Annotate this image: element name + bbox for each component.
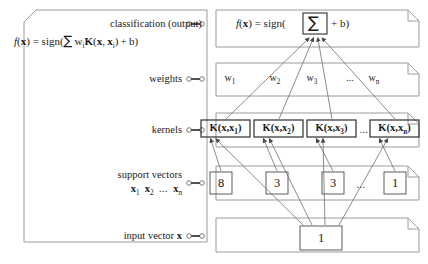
- support-vector-digit-n: 1: [384, 177, 406, 190]
- label-input-vector: input vector x: [90, 231, 182, 242]
- weight-label-n: wn: [362, 73, 386, 86]
- kernel-box-2: K(x,x2): [254, 123, 303, 136]
- label-weights: weights: [120, 74, 182, 85]
- output-formula-suffix: + b): [331, 18, 349, 29]
- weight-label-ellipsis: ...: [340, 73, 360, 83]
- svm-architecture-diagram: classification (output) f(x) = sign(∑ wi…: [0, 0, 428, 264]
- label-support-vectors: support vectors: [80, 170, 182, 181]
- label-kernels: kernels: [120, 125, 182, 136]
- support-vector-digit-3: 3: [322, 177, 344, 190]
- label-classification-output: classification (output): [110, 19, 182, 30]
- support-vector-digit-1: 8: [210, 177, 232, 190]
- weight-label-3: w3: [300, 73, 324, 86]
- weight-label-2: w2: [263, 73, 287, 86]
- label-support-vectors-symbols: x1 x2 ... xn: [80, 184, 182, 197]
- kernel-box-3: K(x,x3): [307, 123, 356, 136]
- kernel-box-n: K(x,xn): [370, 123, 419, 136]
- sigma-symbol: ∑: [308, 15, 319, 31]
- input-vector-digit: 1: [300, 232, 342, 245]
- support-vector-digit-2: 3: [266, 177, 288, 190]
- output-formula-prefix: f(x) = sign(: [236, 18, 286, 29]
- kernel-box-1: K(x,x1): [201, 123, 250, 136]
- weight-label-1: w1: [218, 73, 242, 86]
- left-panel-formula: f(x) = sign(∑ wiK(x, xi) + b): [14, 34, 138, 50]
- support-vector-ellipsis: ...: [352, 180, 370, 190]
